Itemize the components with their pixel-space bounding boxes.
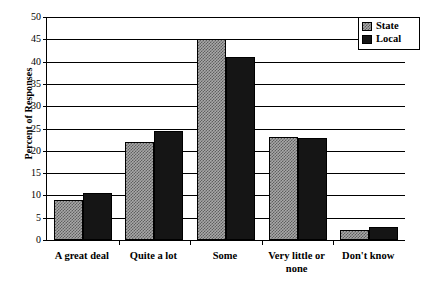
y-tick-mark xyxy=(43,106,47,107)
x-tick-mark xyxy=(119,240,120,245)
y-tick-label: 20 xyxy=(31,146,41,156)
legend-item-state: State xyxy=(362,20,416,33)
y-tick-mark xyxy=(43,84,47,85)
y-tick-label: 25 xyxy=(31,124,41,134)
x-axis-label: A great deal xyxy=(46,249,118,262)
bar-chart: Percent of Responses 0510152025303540455… xyxy=(0,0,432,290)
x-axis-label: Don't know xyxy=(332,249,404,262)
y-tick-mark xyxy=(43,17,47,18)
y-tick-label: 15 xyxy=(31,168,41,178)
x-axis-label: Some xyxy=(189,249,261,262)
bar-local xyxy=(154,131,183,240)
bar-state xyxy=(125,142,154,240)
x-tick-mark xyxy=(262,240,263,245)
y-tick-mark xyxy=(43,39,47,40)
y-tick-mark xyxy=(43,62,47,63)
y-tick-mark xyxy=(43,218,47,219)
legend-label-state: State xyxy=(376,21,399,32)
grid-line xyxy=(47,39,405,40)
bar-local xyxy=(369,227,398,240)
bar-local xyxy=(83,193,112,240)
bar-state xyxy=(197,39,226,240)
bar-state xyxy=(340,230,369,240)
x-tick-mark xyxy=(333,240,334,245)
bar-local xyxy=(298,138,327,240)
y-tick-label: 35 xyxy=(31,79,41,89)
y-tick-mark xyxy=(43,151,47,152)
x-axis-label: Very little or none xyxy=(261,249,333,275)
y-tick-mark xyxy=(43,129,47,130)
plot-area: 05101520253035404550 xyxy=(46,17,405,241)
grid-line xyxy=(47,17,405,18)
y-tick-mark xyxy=(43,195,47,196)
x-axis-label: Quite a lot xyxy=(118,249,190,262)
legend-swatch-state-icon xyxy=(362,22,372,31)
bar-local xyxy=(226,57,255,240)
bar-state xyxy=(269,137,298,240)
y-tick-label: 40 xyxy=(31,57,41,67)
y-tick-label: 50 xyxy=(31,12,41,22)
legend-swatch-local-icon xyxy=(362,35,372,44)
y-tick-mark xyxy=(43,240,47,241)
y-tick-label: 45 xyxy=(31,34,41,44)
bar-state xyxy=(54,200,83,240)
y-tick-label: 30 xyxy=(31,101,41,111)
y-tick-label: 5 xyxy=(36,213,41,223)
y-tick-mark xyxy=(43,173,47,174)
chart-legend: State Local xyxy=(358,17,420,50)
y-tick-label: 10 xyxy=(31,190,41,200)
y-tick-label: 0 xyxy=(36,235,41,245)
legend-label-local: Local xyxy=(376,34,401,45)
x-tick-mark xyxy=(190,240,191,245)
legend-item-local: Local xyxy=(362,33,416,46)
